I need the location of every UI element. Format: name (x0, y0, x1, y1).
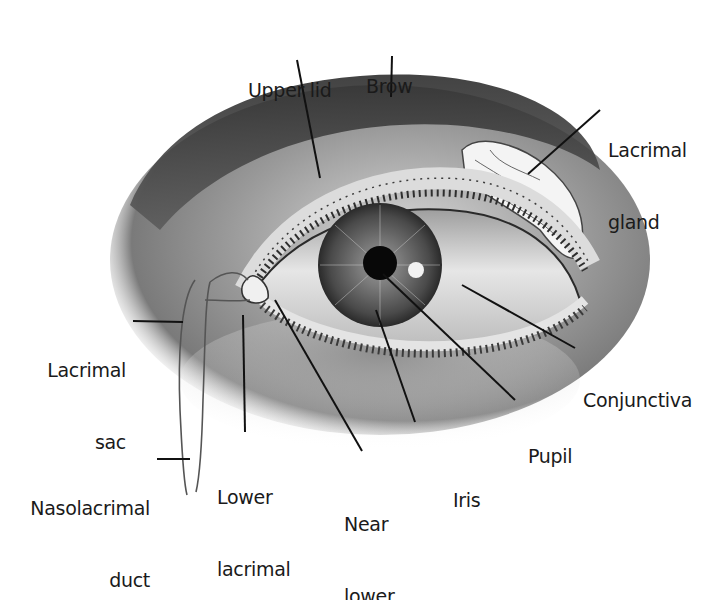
corneal-highlight (408, 262, 424, 278)
label-upper-lid: Upper lid (248, 30, 332, 150)
eye-anatomy-diagram: Upper lid Brow Lacrimal gland Lacrimal s… (0, 0, 725, 600)
label-nasolacrimal-duct: Nasolacrimal duct (2, 448, 150, 600)
label-conjunctiva: Conjunctiva (583, 340, 692, 460)
label-pupil: Pupil (528, 396, 572, 516)
label-lacrimal-gland: Lacrimal gland (608, 90, 687, 282)
leader-lacrimal-sac (133, 321, 183, 322)
label-iris: Iris (453, 440, 480, 560)
label-brow: Brow (366, 26, 412, 146)
label-near-lower-lacrimal-punctum: Near lower lacrimal punctum (344, 464, 427, 600)
pupil (363, 246, 397, 280)
label-lower-lacrimal-canaliculus: Lower lacrimal canaliculus (217, 437, 320, 600)
